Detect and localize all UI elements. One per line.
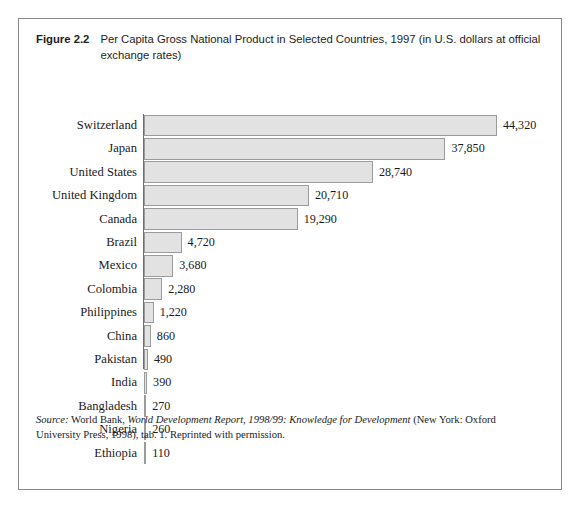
- bar-value-label: 3,680: [179, 254, 206, 277]
- bar-value-label: 44,320: [503, 114, 536, 137]
- bar-category-label: India: [19, 371, 137, 394]
- bar-row: Pakistan490: [19, 348, 563, 371]
- bar-category-label: Pakistan: [19, 348, 137, 371]
- bar-value-label: 860: [157, 325, 175, 348]
- bar-category-label: Philippines: [19, 301, 137, 324]
- bar-row: United States28,740: [19, 161, 563, 184]
- bar: [144, 138, 445, 160]
- bar: [144, 185, 309, 207]
- bar-category-label: Canada: [19, 208, 137, 231]
- bar-row: China860: [19, 325, 563, 348]
- bar-row: India390: [19, 371, 563, 394]
- bar-category-label: China: [19, 325, 137, 348]
- bar-category-label: Ethiopia: [19, 442, 137, 465]
- bar-row: Philippines1,220: [19, 301, 563, 324]
- bar: [144, 325, 151, 347]
- bar-value-label: 20,710: [315, 184, 348, 207]
- bar: [144, 255, 173, 277]
- bar-row: Ethiopia110: [19, 442, 563, 465]
- bar-category-label: Japan: [19, 137, 137, 160]
- source-prefix: Source:: [36, 414, 69, 425]
- bar-value-label: 37,850: [451, 137, 484, 160]
- bar-category-label: Switzerland: [19, 114, 137, 137]
- bar-row: Canada19,290: [19, 208, 563, 231]
- bar-row: Switzerland44,320: [19, 114, 563, 137]
- bar: [144, 442, 146, 464]
- bar-row: United Kingdom20,710: [19, 184, 563, 207]
- bar-value-label: 1,220: [160, 301, 187, 324]
- bar-value-label: 28,740: [379, 161, 412, 184]
- bar-row: Colombia2,280: [19, 278, 563, 301]
- bar: [144, 372, 147, 394]
- source-publisher: World Bank,: [69, 414, 128, 425]
- bar: [144, 208, 298, 230]
- bar-value-label: 390: [153, 371, 171, 394]
- bar-category-label: United States: [19, 161, 137, 184]
- bar-value-label: 490: [154, 348, 172, 371]
- bar-value-label: 2,280: [168, 278, 195, 301]
- figure-number-label: Figure 2.2: [36, 32, 100, 48]
- bar: [144, 302, 154, 324]
- bar-category-label: Brazil: [19, 231, 137, 254]
- bar: [144, 349, 148, 371]
- bar-chart: Switzerland44,320Japan37,850United State…: [19, 97, 563, 377]
- bar-row: Mexico3,680: [19, 254, 563, 277]
- bar-category-label: Colombia: [19, 278, 137, 301]
- bar: [144, 232, 182, 254]
- bar-row: Japan37,850: [19, 137, 563, 160]
- bar: [144, 278, 162, 300]
- bar-value-label: 19,290: [304, 208, 337, 231]
- bar-category-label: Mexico: [19, 254, 137, 277]
- figure-caption-text: Per Capita Gross National Product in Sel…: [100, 32, 547, 63]
- bar-value-label: 4,720: [188, 231, 215, 254]
- bar-row: Brazil4,720: [19, 231, 563, 254]
- figure-caption: Figure 2.2 Per Capita Gross National Pro…: [36, 32, 547, 63]
- bar: [144, 115, 497, 137]
- source-title: World Development Report, 1998/99: Knowl…: [128, 414, 411, 425]
- bar: [144, 161, 373, 183]
- bar-category-label: United Kingdom: [19, 184, 137, 207]
- bar-value-label: 110: [152, 442, 170, 465]
- figure-frame: Figure 2.2 Per Capita Gross National Pro…: [18, 18, 562, 490]
- source-note: Source: World Bank, World Development Re…: [36, 412, 541, 442]
